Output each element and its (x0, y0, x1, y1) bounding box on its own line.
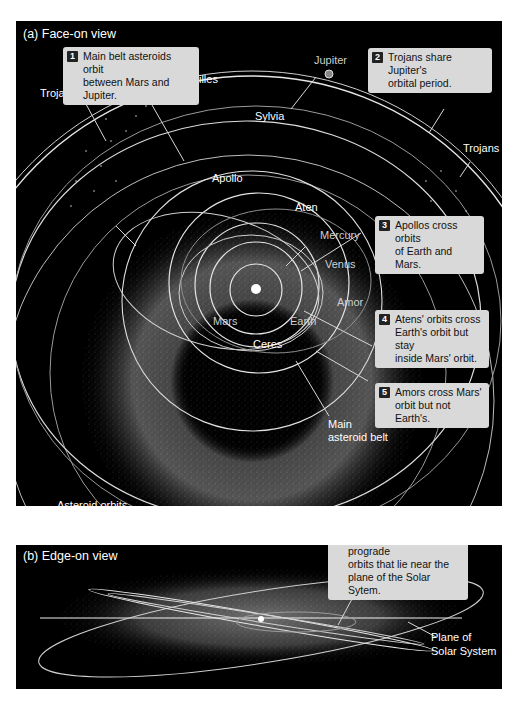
label-mars: Mars (213, 315, 237, 327)
sun (251, 284, 261, 294)
callout-text: Atens' orbits cross Earth's orbit but st… (395, 313, 483, 365)
callout-number: 1 (67, 51, 78, 62)
label-amor: Amor (337, 296, 363, 308)
callout-number: 4 (379, 314, 390, 325)
callout-text: Main belt asteroids orbit between Mars a… (83, 50, 193, 102)
label-jupiter: Jupiter (314, 54, 347, 66)
callout-2: 2 Trojans share Jupiter's orbital period… (368, 48, 492, 93)
callout-4: 4 Atens' orbits cross Earth's orbit but … (375, 310, 489, 368)
label-earth: Earth (290, 315, 316, 327)
sun (258, 616, 264, 622)
callout-text: Trojans share Jupiter's orbital period. (388, 51, 486, 90)
label-sylvia: Sylvia (255, 110, 284, 122)
callout-number: 5 (379, 387, 390, 398)
label-asteroid-orbits: Asteroid orbits (57, 499, 127, 506)
callout-1: 1 Main belt asteroids orbit between Mars… (63, 47, 199, 105)
callout-number: 3 (379, 220, 390, 231)
label-aten: Aten (295, 201, 318, 213)
label-plane-of-solar-system: Plane of Solar System (431, 630, 496, 658)
panel-a-title: (a) Face-on view (23, 27, 116, 41)
callout-6: 6 Asteroids follow prograde orbits that … (328, 545, 468, 600)
panel-b-title: (b) Edge-on view (23, 549, 118, 563)
label-mercury: Mercury (320, 229, 360, 241)
callout-text: Apollos cross orbits of Earth and Mars. (395, 219, 478, 271)
label-trojans-right: Trojans (463, 142, 499, 154)
callout-3: 3 Apollos cross orbits of Earth and Mars… (375, 216, 484, 274)
label-venus: Venus (325, 258, 356, 270)
callout-text: Asteroids follow prograde orbits that li… (348, 545, 462, 597)
callout-text: Amors cross Mars' orbit but not Earth's. (395, 386, 483, 425)
edge-on-view-panel: (b) Edge-on view 6 Asteroids follow prog… (16, 545, 502, 689)
callout-number: 2 (372, 52, 383, 63)
jupiter-planet (325, 70, 333, 78)
face-on-view-panel: (a) Face-on view Trojans Jupiter Achille… (16, 21, 502, 506)
label-ceres: Ceres (253, 338, 282, 350)
label-apollo: Apollo (212, 172, 243, 184)
trojan-cloud-left (70, 98, 157, 207)
callout-5: 5 Amors cross Mars' orbit but not Earth'… (375, 383, 489, 428)
